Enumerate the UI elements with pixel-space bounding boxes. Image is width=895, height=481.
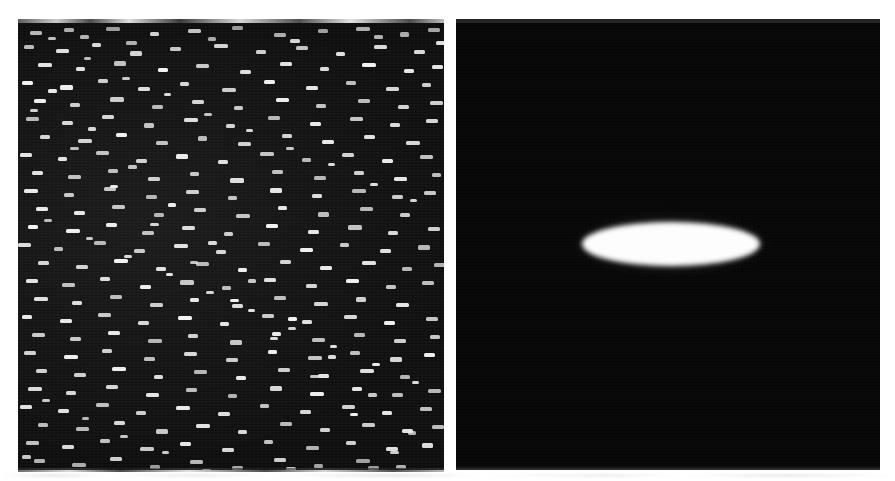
- speckle-dash: [62, 283, 75, 287]
- speckle-dash: [184, 352, 197, 356]
- speckle-dash: [146, 195, 157, 199]
- speckle-dash: [420, 155, 433, 159]
- speckle-dash: [354, 171, 364, 175]
- speckle-dash: [36, 369, 47, 373]
- speckle-dash: [188, 29, 201, 33]
- speckle-dash: [154, 375, 163, 379]
- speckle-dash: [300, 248, 313, 252]
- speckle-dash: [32, 333, 45, 337]
- speckle-dash: [148, 339, 162, 343]
- speckle-dash: [156, 267, 166, 271]
- speckle-dash: [238, 430, 247, 434]
- speckle-dash: [166, 273, 173, 276]
- speckle-dash: [36, 207, 48, 211]
- speckle-dash: [222, 286, 231, 290]
- speckle-dash: [124, 255, 132, 258]
- bright-ellipse-blob: [582, 222, 760, 266]
- speckle-dash: [340, 243, 349, 247]
- speckle-dash: [184, 118, 198, 122]
- speckle-dash: [196, 64, 209, 68]
- speckle-dash: [58, 157, 67, 161]
- speckle-dash: [224, 232, 233, 236]
- speckle-dash: [368, 393, 377, 397]
- speckle-dash: [320, 428, 330, 432]
- speckle-dash: [218, 412, 230, 416]
- speckle-dash: [76, 427, 89, 431]
- speckle-dash: [30, 109, 38, 112]
- speckle-dash: [382, 411, 392, 415]
- speckle-dash: [414, 50, 425, 54]
- speckle-dash: [390, 123, 400, 127]
- speckle-dash: [232, 466, 243, 470]
- speckle-dash: [54, 247, 63, 251]
- speckle-dash: [222, 88, 236, 92]
- speckle-dash: [306, 284, 317, 288]
- speckle-dash: [270, 188, 282, 193]
- speckle-dash: [268, 116, 280, 120]
- speckle-dash: [360, 369, 374, 373]
- speckle-dash: [392, 195, 403, 199]
- speckle-dash: [182, 226, 195, 230]
- speckle-dash: [276, 98, 289, 102]
- speckle-dash: [308, 230, 319, 234]
- speckle-dash: [262, 314, 274, 318]
- speckle-dash: [58, 409, 69, 413]
- speckle-dash: [126, 41, 137, 45]
- speckle-dash: [264, 440, 273, 444]
- speckle-dash: [222, 448, 234, 452]
- speckle-dash: [346, 81, 356, 85]
- speckle-dash: [386, 87, 399, 91]
- speckle-dash: [404, 69, 414, 73]
- speckle-dash: [114, 61, 126, 66]
- speckle-dash: [296, 46, 308, 50]
- speckle-dash: [230, 340, 242, 345]
- speckle-dash: [258, 242, 270, 246]
- speckle-dash: [176, 406, 190, 410]
- speckle-dash: [106, 223, 117, 227]
- speckle-dash: [302, 158, 311, 162]
- speckle-dash: [402, 267, 412, 271]
- speckle-dash: [274, 296, 286, 300]
- speckle-dash: [110, 457, 122, 461]
- speckle-noise-panel: [18, 23, 444, 470]
- speckle-dash: [190, 261, 198, 264]
- speckle-dash: [432, 173, 441, 177]
- speckle-dash: [22, 315, 32, 319]
- speckle-dash: [68, 175, 81, 179]
- speckle-dash: [154, 213, 164, 217]
- speckle-dash: [24, 189, 38, 193]
- speckle-dash: [164, 93, 171, 96]
- speckle-dash: [424, 191, 436, 195]
- speckle-dash: [86, 237, 93, 240]
- speckle-dash: [150, 465, 160, 469]
- speckle-dash: [290, 39, 300, 43]
- speckle-dash: [62, 121, 73, 125]
- speckle-dash: [274, 458, 286, 462]
- speckle-dash: [230, 299, 239, 302]
- speckle-dash: [190, 298, 199, 302]
- speckle-dash: [306, 446, 319, 450]
- speckle-dash: [362, 63, 376, 67]
- speckle-dash: [208, 241, 217, 245]
- speckle-dash: [256, 50, 266, 54]
- speckle-dash: [116, 133, 127, 137]
- speckle-dash: [208, 37, 216, 41]
- speckle-dash: [188, 334, 198, 338]
- speckle-dash: [400, 375, 410, 379]
- speckle-dash: [102, 349, 112, 353]
- speckle-dash: [228, 196, 237, 200]
- speckle-dash: [20, 153, 32, 157]
- speckle-dash: [272, 170, 283, 174]
- speckle-dash: [316, 104, 326, 108]
- speckle-dash: [82, 417, 89, 420]
- speckle-dash: [174, 244, 188, 248]
- speckle-dash: [318, 212, 329, 217]
- speckle-dash: [406, 141, 420, 145]
- speckle-dash: [226, 358, 238, 362]
- speckle-dash: [358, 99, 370, 103]
- speckle-dash: [422, 281, 434, 285]
- speckle-dash: [362, 261, 376, 265]
- speckle-dash: [232, 304, 243, 308]
- speckle-dash: [158, 68, 168, 72]
- speckle-dash: [428, 28, 440, 32]
